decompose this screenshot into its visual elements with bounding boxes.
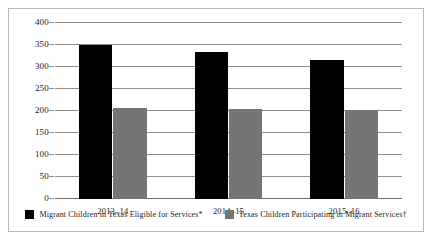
bar xyxy=(310,60,343,199)
y-tick-label-350: 350 xyxy=(35,39,49,49)
y-tick-mark-400 xyxy=(49,22,54,23)
bar xyxy=(345,110,378,199)
y-tick-label-250: 250 xyxy=(35,83,49,93)
y-tick-label-50: 50 xyxy=(40,171,49,181)
bar xyxy=(195,52,228,199)
chart-frame: 050100150200250300350400 2013–142014–152… xyxy=(8,8,424,232)
y-tick-label-0: 0 xyxy=(44,193,49,203)
legend-swatch-icon xyxy=(25,210,34,219)
y-tick-mark-300 xyxy=(49,66,54,67)
bar xyxy=(229,109,262,199)
bar-group xyxy=(55,23,171,199)
bars-layer xyxy=(55,23,402,199)
y-tick-label-400: 400 xyxy=(35,17,49,27)
y-tick-label-300: 300 xyxy=(35,61,49,71)
legend-item[interactable]: Migrant Children in Texas Eligible for S… xyxy=(25,210,202,219)
legend-label: Migrant Children in Texas Eligible for S… xyxy=(39,210,202,219)
y-tick-mark-150 xyxy=(49,132,54,133)
y-tick-mark-200 xyxy=(49,110,54,111)
y-tick-mark-250 xyxy=(49,88,54,89)
y-tick-mark-350 xyxy=(49,44,54,45)
y-tick-mark-100 xyxy=(49,154,54,155)
chart-legend: Migrant Children in Texas Eligible for S… xyxy=(9,210,423,219)
y-tick-label-150: 150 xyxy=(35,127,49,137)
bar xyxy=(79,45,112,199)
bar-group xyxy=(286,23,402,199)
bar xyxy=(113,108,146,199)
y-tick-mark-50 xyxy=(49,176,54,177)
legend-label: Texas Children Participating in Migrant … xyxy=(239,210,407,219)
bar-group xyxy=(171,23,287,199)
y-tick-mark-0 xyxy=(49,198,54,199)
y-tick-label-100: 100 xyxy=(35,149,49,159)
plot-area: 050100150200250300350400 2013–142014–152… xyxy=(55,23,402,199)
y-tick-label-200: 200 xyxy=(35,105,49,115)
legend-item[interactable]: Texas Children Participating in Migrant … xyxy=(225,210,407,219)
legend-swatch-icon xyxy=(225,210,234,219)
